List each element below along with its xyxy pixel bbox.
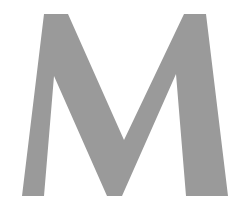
- letter-m-glyph: M: [0, 0, 252, 210]
- letter-canvas: M: [0, 0, 252, 210]
- letter-m-shape: [22, 14, 228, 196]
